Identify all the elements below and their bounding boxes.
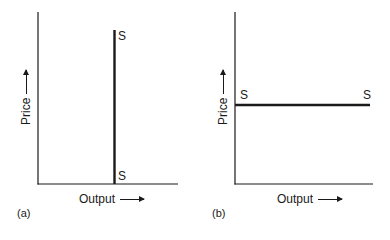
panel-b-x-axis-text: Output [277, 192, 313, 206]
panel-a-x-axis-label: Output [79, 192, 144, 206]
panel-a-y-arrow-icon [26, 70, 27, 94]
panel-b-x-arrow-icon [318, 199, 342, 200]
panel-a-y-axis-label: Price [19, 70, 33, 125]
panel-b-caption: (b) [212, 207, 225, 219]
panel-b-y-axis-label: Price [216, 70, 230, 125]
panel-a-x-axis-text: Output [79, 192, 115, 206]
panel-b-x-axis-label: Output [277, 192, 342, 206]
panel-a-supply-top-label: S [118, 30, 126, 42]
panel-b-supply-left-label: S [240, 89, 248, 101]
panel-b-supply-right-label: S [363, 89, 371, 101]
panel-a-x-arrow-icon [120, 199, 144, 200]
panel-b-y-axis-text: Price [216, 98, 230, 125]
panel-a-supply-bottom-label: S [118, 170, 126, 182]
panel-a-y-axis-text: Price [19, 98, 33, 125]
panel-a-caption: (a) [17, 207, 30, 219]
panel-b-y-arrow-icon [223, 70, 224, 94]
